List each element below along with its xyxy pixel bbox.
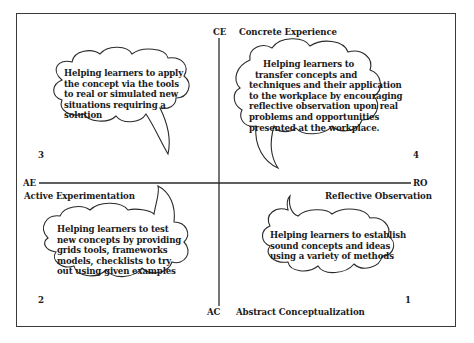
axis-ae-label: Active Experimentation (24, 191, 135, 201)
axis-ce-label: Concrete Experience (239, 27, 337, 37)
quadrant-1-text: Helping learners to establish sound conc… (270, 230, 406, 262)
quadrant-4-number: 4 (413, 150, 419, 160)
axis-ac-abbr: AC (207, 307, 220, 317)
axis-ac-label: Abstract Conceptualization (236, 307, 365, 317)
quadrant-2-text: Helping learners to test new concepts by… (57, 224, 181, 277)
quadrant-1-number: 1 (405, 295, 411, 305)
quadrant-4-text: Helping learners to transfer concepts an… (249, 59, 402, 133)
quadrant-3-text: Helping learners to apply the concept vi… (64, 68, 183, 121)
quadrant-3-number: 3 (38, 150, 44, 160)
diagram-shapes (0, 0, 474, 343)
axis-ae-abbr: AE (23, 178, 36, 188)
axis-ce-abbr: CE (213, 27, 226, 37)
axis-ro-label: Reflective Observation (325, 191, 432, 201)
axis-ro-abbr: RO (413, 178, 427, 188)
quadrant-2-number: 2 (38, 295, 44, 305)
